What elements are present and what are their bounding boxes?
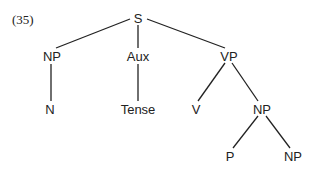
tree-node-aux: Aux [127, 50, 149, 63]
tree-edge-np2-p [233, 116, 258, 148]
tree-node-p: P [226, 150, 235, 163]
tree-node-np3: NP [284, 150, 302, 163]
tree-node-n: N [45, 103, 54, 116]
tree-node-vp: VP [220, 50, 237, 63]
tree-edge-vp-np2 [232, 63, 258, 101]
tree-edge-s-vp [147, 19, 225, 48]
tree-node-v: V [192, 103, 201, 116]
tree-node-tense: Tense [121, 103, 156, 116]
tree-edges [0, 0, 313, 171]
tree-node-s: S [134, 12, 143, 25]
tree-node-np1: NP [43, 50, 61, 63]
tree-edge-np2-np3 [266, 116, 290, 148]
tree-edge-vp-v [198, 63, 225, 101]
syntax-tree-diagram: (35) SNPAuxVPNTenseVNPPNP [0, 0, 313, 171]
tree-node-np2: NP [253, 103, 271, 116]
tree-edge-s-np1 [56, 19, 130, 48]
